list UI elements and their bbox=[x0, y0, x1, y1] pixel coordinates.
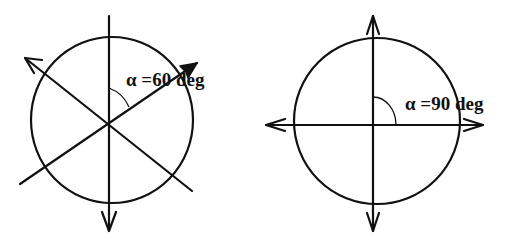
diagram-canvas bbox=[0, 0, 515, 245]
left-angle-arc bbox=[109, 88, 129, 107]
right-circle bbox=[294, 38, 460, 204]
left-figure bbox=[20, 16, 197, 231]
right-angle-label: α =90 deg bbox=[405, 94, 483, 113]
right-angle-arc bbox=[373, 97, 396, 125]
left-angle-label: α =60 deg bbox=[126, 70, 204, 89]
right-figure bbox=[266, 16, 483, 231]
